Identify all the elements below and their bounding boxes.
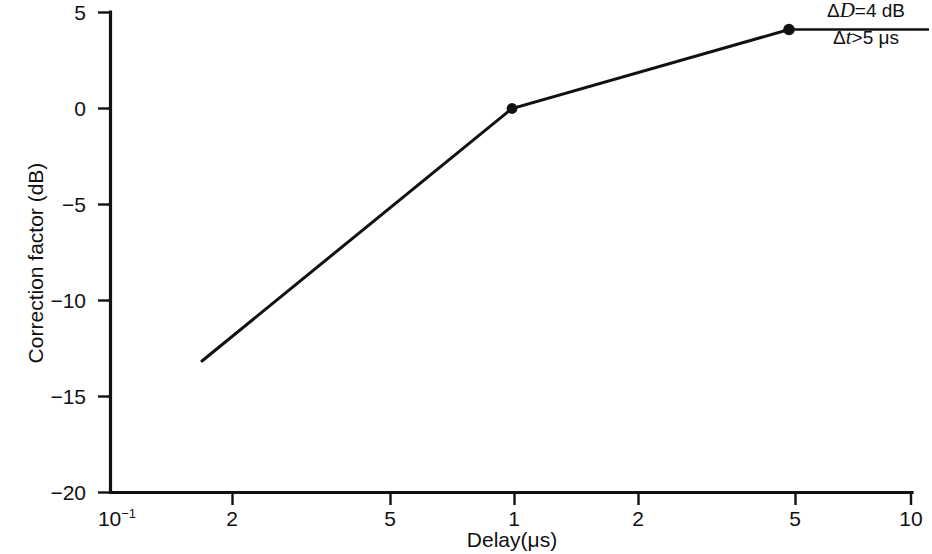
annotation-denominator-tail: >5 μs [852,27,899,48]
y-tick-label: −20 [24,482,86,503]
chart-annotation: ΔD=4 dB Δt>5 μs [800,0,932,49]
y-tick-label: 0 [34,98,86,119]
x-axis-title: Delay(μs) [0,528,932,552]
annotation-numerator-tail: =4 dB [855,0,905,21]
y-axis-title: Correction factor (dB) [24,123,48,403]
data-series-line [202,30,789,362]
x-tick-label: 5 [789,508,801,529]
x-tick-marks [233,493,912,505]
y-tick-label: 5 [34,2,86,23]
x-tick-label-mantissa: 10 [98,507,121,530]
chart-plot-area [0,0,932,554]
chart-figure: 5 0 −5 −10 −15 −20 10−1 2 5 1 2 5 10 Cor… [0,0,932,554]
x-tick-label: 2 [632,508,644,529]
y-tick-marks [98,13,110,493]
x-tick-label: 5 [384,508,396,529]
annotation-denominator: Δt>5 μs [800,23,932,48]
delta-symbol: Δ [833,27,846,48]
delta-symbol: Δ [827,0,840,21]
x-tick-label: 10−1 [98,508,136,529]
variable-D: D [840,0,855,22]
x-tick-label: 1 [508,508,520,529]
x-tick-label: 2 [226,508,238,529]
x-tick-label: 10 [899,508,922,529]
x-tick-label-exponent: −1 [121,506,136,521]
x-axis-title-text: Delay(μs) [467,528,557,552]
annotation-numerator: ΔD=4 dB [800,0,932,23]
data-point-marker [507,103,518,114]
